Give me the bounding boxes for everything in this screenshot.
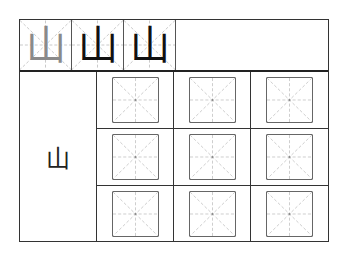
practice-cell[interactable] xyxy=(97,186,174,241)
practice-cell[interactable] xyxy=(251,186,328,241)
practice-cell[interactable] xyxy=(174,186,251,241)
large-character: 山 xyxy=(46,139,70,174)
practice-cell[interactable] xyxy=(251,129,328,186)
mi-grid-guide-icon xyxy=(190,135,235,179)
stroke-example-char-2: 山 xyxy=(72,20,123,70)
mi-grid-guide-icon xyxy=(113,135,158,179)
practice-box[interactable] xyxy=(266,134,313,180)
stroke-example-cell-2: 山 xyxy=(72,20,124,70)
practice-box[interactable] xyxy=(189,191,236,237)
practice-cell[interactable] xyxy=(174,72,251,129)
stroke-order-row: 山 山 山 xyxy=(20,20,328,72)
practice-cell[interactable] xyxy=(251,72,328,129)
practice-box[interactable] xyxy=(266,77,313,123)
mi-grid-guide-icon xyxy=(190,192,235,236)
practice-box[interactable] xyxy=(112,77,159,123)
practice-cell[interactable] xyxy=(97,72,174,129)
practice-grid xyxy=(97,72,328,241)
practice-cell[interactable] xyxy=(97,129,174,186)
practice-box[interactable] xyxy=(189,77,236,123)
mi-grid-guide-icon xyxy=(267,135,312,179)
practice-box[interactable] xyxy=(112,134,159,180)
practice-cell[interactable] xyxy=(174,129,251,186)
stroke-example-char-1: 山 xyxy=(20,20,71,70)
mi-grid-guide-icon xyxy=(113,78,158,122)
practice-box[interactable] xyxy=(189,134,236,180)
mi-grid-guide-icon xyxy=(267,78,312,122)
large-character-cell: 山 xyxy=(20,72,97,241)
stroke-example-cell-1: 山 xyxy=(20,20,72,70)
mi-grid-guide-icon xyxy=(190,78,235,122)
stroke-example-char-3: 山 xyxy=(124,20,175,70)
practice-box[interactable] xyxy=(266,191,313,237)
mi-grid-guide-icon xyxy=(113,192,158,236)
writing-worksheet: 山 山 山 山 xyxy=(19,19,329,242)
practice-box[interactable] xyxy=(112,191,159,237)
mi-grid-guide-icon xyxy=(267,192,312,236)
stroke-example-cell-3: 山 xyxy=(124,20,176,70)
